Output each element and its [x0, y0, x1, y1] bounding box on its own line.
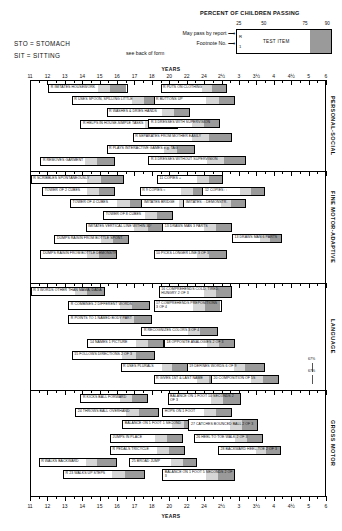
- percentile-75-90-fill: [167, 435, 182, 442]
- percentile-75-90-fill: [245, 364, 264, 371]
- milestone-bar[interactable]: R WASHES & DRIES HANDS: [107, 108, 191, 117]
- milestone-label: 17 COMPREHENDS PREPOSITIONS 3 OF 4: [156, 301, 219, 311]
- milestone-label: BALANCE ON 1 FOOT 10 SECONDS 2 OF 3: [170, 394, 238, 404]
- milestone-bar[interactable]: 11 COPIES +: [157, 175, 223, 184]
- percentile-50-75-fill: [162, 364, 172, 371]
- milestone-label: DUMPS RAISIN FROM BOTTLE DEMONSTR.: [43, 251, 117, 258]
- percentile-50-75-fill: [204, 409, 216, 416]
- milestone-bar[interactable]: R SEPARATES FROM MOTHER EASILY: [133, 133, 232, 142]
- milestone-bar[interactable]: TOWER OF 2 CUBES: [42, 187, 115, 196]
- milestone-bar[interactable]: 18 OPPOSITE ANALOGIES 2 OF 3: [164, 339, 235, 348]
- milestone-bar[interactable]: R COMBINES 2 DIFFERENT WORDS: [68, 301, 150, 310]
- percentile-50-75-fill: [171, 459, 183, 466]
- milestone-label: 28 BACKWARD HEEL-TOE 2 OF 3: [221, 447, 277, 454]
- milestone-label: 24 THROWS BALL OVERHAND: [78, 409, 130, 416]
- milestone-bar[interactable]: TOWER OF 8 CUBES: [103, 211, 173, 220]
- milestone-label: BALANCE ON 1 FOOT 5 SECONDS 2 OF 3: [165, 470, 233, 480]
- milestone-bar[interactable]: 25 BROAD JUMP: [129, 458, 197, 467]
- milestone-bar[interactable]: 16 COMPREHENDS COLD, TIRED, HUNGRY 2 OF …: [159, 286, 232, 298]
- milestone-bar[interactable]: R 3 WORDS OTHER THAN MAMA, DADA: [31, 287, 105, 296]
- milestone-label: R RECOGNIZES COLORS 3 OF 4: [144, 328, 199, 335]
- milestone-bar[interactable]: 13 DRAWS MAN 3 PARTS: [162, 223, 232, 232]
- percentile-50-75-fill: [206, 97, 220, 104]
- milestone-bar[interactable]: R PEDALS TRICYCLE: [110, 446, 185, 455]
- milestone-label: R SEPARATES FROM MOTHER EASILY: [135, 134, 201, 141]
- milestone-label: JUMPS IN PLACE: [113, 435, 142, 442]
- percentile-50-75-fill: [98, 85, 110, 92]
- milestone-label: R KICKS BALL FORWARD: [83, 395, 126, 402]
- percentile-75-90-fill: [136, 352, 155, 359]
- percentile-50-75-fill: [136, 340, 148, 347]
- percentile-50-75-fill: [132, 97, 144, 104]
- milestone-bar[interactable]: 17 COMPREHENDS PREPOSITIONS 3 OF 4: [154, 300, 222, 312]
- milestone-bar[interactable]: 24 THROWS BALL OVERHAND: [75, 408, 159, 417]
- milestone-bar[interactable]: BALANCE ON 1 FOOT 10 SECONDS 2 OF 3: [168, 393, 241, 405]
- milestone-bar[interactable]: R 3 DRESSES WITH SUPERVISION: [148, 119, 219, 128]
- milestone-bar[interactable]: R USES SPOON, SPILLING LITTLE: [72, 96, 161, 105]
- milestone-bar[interactable]: 27 CATCHES BOUNCED BALL 2 OF 3: [188, 419, 258, 431]
- milestone-label: R SCRIBBLES SPONTANEOUSLY: [33, 176, 89, 183]
- milestone-bar[interactable]: R SCRIBBLES SPONTANEOUSLY: [31, 175, 124, 184]
- percentile-75-90-fill: [97, 158, 114, 165]
- milestone-label: 13 DRAWS MAN 3 PARTS: [165, 224, 208, 231]
- milestone-label: R PLAYS INTERACTIVE GAMES e.g. TAG: [109, 146, 178, 153]
- milestone-bar[interactable]: IMITATES VERTICAL LINE WITHIN 30°: [86, 223, 166, 232]
- percentile-50-75-fill: [86, 459, 98, 466]
- milestone-bar[interactable]: DUMPS RAISIN FROM BOTTLE DEMONSTR.: [40, 250, 117, 259]
- milestone-label: 15 FOLLOWS DIRECTIONS 2 OF 3: [74, 352, 132, 359]
- percentile-75-90-fill: [97, 459, 116, 466]
- milestone-bar[interactable]: R 23 WALKS UP STEPS: [63, 470, 145, 479]
- milestone-bar[interactable]: HOPS ON 1 FOOT: [162, 408, 232, 417]
- milestone-label: 14 NAMES 1 PICTURE: [90, 340, 127, 347]
- milestone-label: 27 CATCHES BOUNCED BALL 2 OF 3: [191, 420, 256, 430]
- milestone-label: R GIVES 1ST & LAST NAME: [156, 376, 203, 383]
- milestone-bar[interactable]: 19 DEFINES WORDS 6 OF 9: [187, 363, 265, 372]
- milestone-bar[interactable]: R WALKS BACKWARD: [39, 458, 117, 467]
- milestone-bar[interactable]: 20 COMPOSITION OF 5S: [211, 375, 279, 384]
- milestone-bar[interactable]: R PUTS ON CLOTHING: [161, 84, 227, 93]
- milestone-bar[interactable]: R IMITATES HOUSEWORK: [48, 84, 127, 93]
- milestone-bar[interactable]: 14 NAMES 1 PICTURE: [87, 339, 164, 348]
- milestone-bar[interactable]: 15 FOLLOWS DIRECTIONS 2 OF 3: [72, 351, 156, 360]
- percentile-75-90-fill: [99, 188, 114, 195]
- milestone-bar[interactable]: 28 BACKWARD HEEL-TOE 2 OF 3: [218, 446, 281, 455]
- milestone-label: R PEDALS TRICYCLE: [113, 447, 149, 454]
- percentile-50-75-fill: [157, 447, 169, 454]
- milestone-label: IMITATES □ DEMONSTR.: [186, 200, 228, 207]
- milestone-bar[interactable]: JUMPS IN PLACE: [110, 434, 183, 443]
- milestone-bar[interactable]: 12 COPIES □: [202, 187, 265, 196]
- milestone-bar[interactable]: R KICKS BALL FORWARD: [80, 394, 148, 403]
- milestone-label: 25 BROAD JUMP: [132, 459, 160, 466]
- milestone-label: 12 COPIES □: [205, 188, 227, 195]
- percentile-75-90-fill: [200, 328, 217, 335]
- milestone-bar[interactable]: 26 HEEL TO TOE WALK 2 OF 3: [194, 434, 264, 443]
- milestone-bar[interactable]: R USES PLURALS: [121, 363, 189, 372]
- percentile-50-75-fill: [145, 212, 157, 219]
- percentile-75-90-fill: [177, 146, 194, 153]
- milestone-label: 16 COMPREHENDS COLD, TIRED, HUNGRY 2 OF …: [161, 287, 229, 297]
- milestone-bar[interactable]: R PLAYS INTERACTIVE GAMES e.g. TAG: [107, 145, 196, 154]
- milestone-bar[interactable]: R 3 DRESSES WITHOUT SUPERVISION: [148, 156, 246, 165]
- milestone-bar[interactable]: IMITATES □ DEMONSTR.: [183, 199, 246, 208]
- milestone-label: R POINTS TO 1 NAMED BODY PART: [71, 316, 132, 323]
- milestone-bar[interactable]: 13 DRAWS MAN 6 PARTS: [232, 234, 282, 243]
- milestone-label: R USES SPOON, SPILLING LITTLE: [74, 97, 132, 104]
- milestone-bar[interactable]: BALANCE ON 1 FOOT 5 SECONDS 2 OF 3: [162, 469, 235, 481]
- percentile-75-90-fill: [219, 97, 234, 104]
- milestone-bar[interactable]: R RECOGNIZES COLORS 3 OF 4: [141, 327, 218, 336]
- milestone-bar[interactable]: DUMPS RAISIN FROM BOTTLE SPONT.: [54, 235, 129, 244]
- milestone-bar[interactable]: TOWER OF 4 CUBES: [70, 199, 148, 208]
- milestone-label: 26 HEEL TO TOE WALK 2 OF 3: [196, 435, 247, 442]
- ddst-chart: PERCENT OF CHILDREN PASSING 25 50 75 90 …: [0, 0, 342, 531]
- section-label-language: LANGUAGE: [328, 283, 337, 390]
- percentile-75-90-fill: [110, 85, 127, 92]
- milestone-bar[interactable]: R 9 COPIES ○: [140, 187, 208, 196]
- milestone-bar[interactable]: R POINTS TO 1 NAMED BODY PART: [68, 315, 152, 324]
- milestone-bar[interactable]: R REMOVES GARMENT: [40, 157, 115, 166]
- milestone-label: R REMOVES GARMENT: [43, 158, 83, 165]
- percentile-50-75-fill: [181, 188, 193, 195]
- milestone-bar[interactable]: R BUTTONS UP: [154, 96, 236, 105]
- milestone-label: TOWER OF 2 CUBES: [45, 188, 81, 195]
- milestone-bar[interactable]: 10 PICKS LONGER LINE 3 OF 3: [154, 250, 227, 259]
- section-label-gross-motor: GROSS MOTOR: [328, 390, 337, 496]
